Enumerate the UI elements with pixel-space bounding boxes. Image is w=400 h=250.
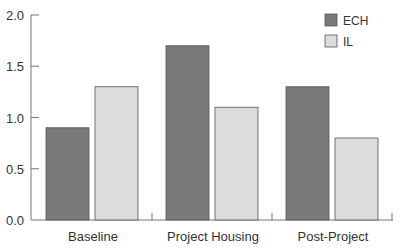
bar-il-post-project — [335, 138, 378, 220]
bar-il-baseline — [95, 87, 138, 220]
y-tick-label: 0.0 — [6, 213, 24, 228]
bar-il-project-housing — [215, 107, 258, 220]
x-axis-labels: BaselineProject HousingPost-Project — [68, 229, 369, 244]
bar-chart: BaselineProject HousingPost-Project 0.00… — [0, 0, 400, 250]
legend: ECHIL — [325, 14, 368, 49]
y-tick-label: 0.5 — [6, 162, 24, 177]
x-tick-label: Baseline — [68, 229, 118, 244]
legend-swatch-ech — [325, 14, 337, 26]
y-tick-label: 1.0 — [6, 111, 24, 126]
y-tick-label: 1.5 — [6, 59, 24, 74]
x-tick-label: Post-Project — [298, 229, 369, 244]
y-axis — [31, 15, 39, 220]
legend-swatch-il — [325, 35, 337, 47]
y-axis-labels: 0.00.51.01.52.0 — [6, 8, 24, 228]
x-tick-label: Project Housing — [167, 229, 259, 244]
legend-label-il: IL — [343, 35, 353, 49]
bar-ech-post-project — [286, 87, 329, 220]
legend-label-ech: ECH — [343, 14, 368, 28]
bars-group — [46, 46, 378, 220]
y-tick-label: 2.0 — [6, 8, 24, 23]
bar-ech-project-housing — [166, 46, 209, 220]
bar-ech-baseline — [46, 128, 89, 220]
